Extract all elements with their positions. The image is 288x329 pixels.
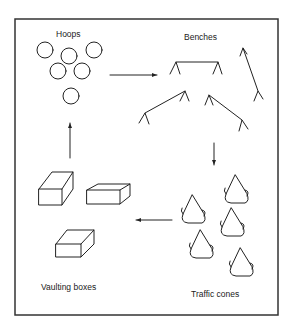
traffic-cone-icon <box>181 195 205 223</box>
bench-icon <box>170 62 222 74</box>
benches-station: Benches <box>139 32 263 131</box>
bench-icon <box>139 91 189 124</box>
hoop-icon <box>63 88 79 104</box>
hoop-icon <box>61 48 77 64</box>
vaulting-box-icon <box>56 230 94 257</box>
bench-icon <box>240 48 263 101</box>
vaulting-box-icon <box>39 172 73 205</box>
traffic-cone-icon <box>224 175 248 203</box>
benches-label: Benches <box>184 32 217 42</box>
bench-icon <box>205 95 248 131</box>
cones-label: Traffic cones <box>191 289 239 299</box>
hoop-icon <box>86 42 102 58</box>
traffic-cone-icon <box>229 248 253 276</box>
vaulting-box-icon <box>87 184 130 204</box>
traffic-cone-icon <box>189 230 213 258</box>
hoops-station: Hoops <box>37 29 102 104</box>
hoops-label: Hoops <box>56 29 81 39</box>
boxes-station: Vaulting boxes <box>39 172 130 292</box>
hoop-icon <box>50 63 66 79</box>
circuit-diagram: Hoops Benches <box>0 0 288 329</box>
boxes-label: Vaulting boxes <box>41 282 96 292</box>
hoop-icon <box>74 63 90 79</box>
traffic-cone-icon <box>220 208 244 236</box>
hoop-icon <box>37 42 53 58</box>
cones-station: Traffic cones <box>181 175 253 299</box>
